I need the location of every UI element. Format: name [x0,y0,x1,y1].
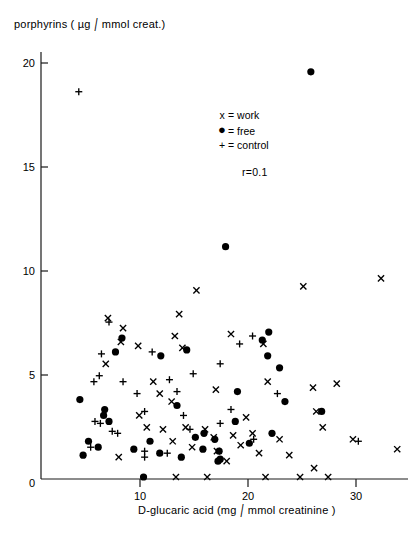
data-point-free [268,430,275,437]
data-point-work [230,432,236,438]
scatter-plot-figure: porphyrins ( µg/mmol creat.) 20 15 10 5 … [0,0,416,535]
data-point-work [320,424,326,430]
data-point-free [146,438,153,445]
data-point-work [103,361,109,367]
data-point-control [355,438,362,445]
data-point-control [75,88,82,95]
data-point-free [105,418,112,425]
series-markers-work [103,275,401,480]
legend-label-control: = control [228,139,269,151]
legend-label-free: = free [228,125,255,137]
data-point-free [130,446,137,453]
data-point-work [160,426,166,432]
data-point-control [180,412,187,419]
data-point-control [90,378,97,385]
x-axis-title-denominator: mmol creatinine ) [248,504,336,516]
data-point-work [311,465,317,471]
slash-icon: / [240,500,245,520]
data-point-control [96,372,103,379]
data-point-work [265,379,271,385]
legend-item-control: += control [216,138,269,153]
data-point-work [189,444,195,450]
data-point-control [134,390,141,397]
legend-item-work: x= work [216,108,269,123]
data-point-control [190,370,197,377]
data-point-work [238,442,244,448]
data-point-free [211,436,218,443]
data-point-free [112,348,119,355]
plus-marker-icon: + [216,138,228,153]
y-tick-label-15: 15 [23,161,35,173]
y-tick-label-0: 0 [29,477,35,489]
data-point-control [186,426,193,433]
data-point-free [178,454,185,461]
data-point-work [120,325,126,331]
data-point-work [116,454,122,460]
data-point-free [200,430,207,437]
data-point-work [172,333,178,339]
data-point-work [378,275,384,281]
data-point-control [236,340,243,347]
data-point-control [98,350,105,357]
data-point-free [234,388,241,395]
data-point-free [199,446,206,453]
data-point-control [227,406,234,413]
data-point-control [141,454,148,461]
data-point-free [232,418,239,425]
y-tick-label-5: 5 [29,369,35,381]
data-point-free [95,444,102,451]
data-point-free [318,408,325,415]
data-point-work [150,379,156,385]
data-point-free [216,448,223,455]
data-point-work [105,315,111,321]
data-point-control [217,420,224,427]
data-point-work [276,436,282,442]
data-point-free [264,352,271,359]
data-point-control [141,408,148,415]
data-point-free [100,412,107,419]
data-point-free [80,452,87,459]
data-point-free [281,398,288,405]
x-axis-title-slash-wrap: / [237,504,248,516]
data-point-work [193,287,199,293]
data-point-free [118,334,125,341]
data-point-free [246,440,253,447]
data-point-work [394,446,400,452]
data-point-work [228,331,234,337]
data-point-control [166,376,173,383]
x-axis-title-numerator: D-glucaric acid (mg [138,504,237,516]
x-tick-label-30: 30 [350,490,362,502]
data-point-free [173,402,180,409]
data-point-free [265,328,272,335]
data-point-control [149,348,156,355]
data-point-free [222,243,229,250]
data-point-free [76,396,83,403]
data-point-work [135,343,141,349]
data-point-free [259,336,266,343]
data-point-work [176,311,182,317]
legend: x= work ●= free += control [216,108,269,153]
data-point-free [307,68,314,75]
correlation-annotation: r=0.1 [242,166,268,178]
data-point-work [224,458,230,464]
y-tick-label-20: 20 [23,57,35,69]
data-point-control [274,390,281,397]
data-point-control [120,378,127,385]
data-point-free [192,434,199,441]
x-tick-label-10: 10 [134,490,146,502]
data-point-work [249,430,255,436]
data-point-control [249,333,256,340]
data-point-work [310,385,316,391]
data-point-control [164,450,171,457]
data-point-free [276,364,283,371]
x-marker-icon: x [216,108,228,123]
data-point-work [334,381,340,387]
data-point-free [183,346,190,353]
legend-label-work: = work [228,109,259,121]
series-markers-free [76,68,325,480]
data-point-free [101,406,108,413]
data-point-control [217,360,224,367]
data-point-control [174,388,181,395]
data-point-free [140,473,147,480]
data-point-work [256,450,262,456]
